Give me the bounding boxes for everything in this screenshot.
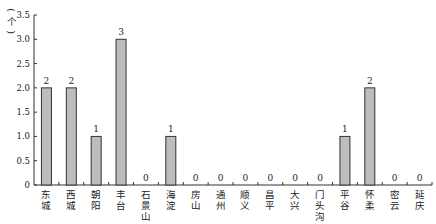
bar-value-label: 0 xyxy=(392,173,398,183)
x-axis-category-labels: 东城西城朝阳丰台石景山海淀房山通州顺义昌平大兴门头沟平谷怀柔密云延庆 xyxy=(41,189,424,222)
y-tick-label: 1.0 xyxy=(16,131,30,141)
x-category-label: 东 xyxy=(41,189,51,200)
x-category-label: 山 xyxy=(141,211,151,222)
x-category-label: 平 xyxy=(340,189,350,200)
bar xyxy=(66,88,76,185)
x-category-label: 延 xyxy=(415,189,425,200)
x-category-label: 柔 xyxy=(365,200,375,211)
y-tick-label: 3.0 xyxy=(16,34,30,44)
bar-value-label: 0 xyxy=(143,173,149,183)
y-tick-label: 2.0 xyxy=(16,83,30,93)
bar xyxy=(41,88,51,185)
x-category-label: 朝 xyxy=(91,189,101,200)
x-category-label: 通 xyxy=(216,189,226,200)
bars: 2213010000001200 xyxy=(41,27,422,185)
bar-value-label: 1 xyxy=(342,124,348,134)
bar-value-label: 0 xyxy=(193,173,199,183)
x-category-label: 城 xyxy=(66,200,76,211)
x-category-label: 房 xyxy=(191,189,201,200)
bar-value-label: 0 xyxy=(417,173,423,183)
y-tick-label: 0.5 xyxy=(16,156,30,166)
bar-value-label: 0 xyxy=(317,173,323,183)
bar-chart: (个) 00.51.01.52.02.53.03.5 2213010000001… xyxy=(0,0,436,224)
y-axis-label: (个) xyxy=(6,8,17,34)
x-category-label: 庆 xyxy=(415,200,425,211)
x-category-label: 沟 xyxy=(315,211,325,222)
x-category-label: 丰 xyxy=(116,189,126,200)
y-axis: 00.51.01.52.02.53.03.5 xyxy=(16,10,37,190)
x-category-label: 山 xyxy=(191,200,201,211)
x-category-label: 淀 xyxy=(166,200,176,211)
bar xyxy=(116,39,126,185)
x-category-label: 州 xyxy=(216,200,226,211)
bar-value-label: 3 xyxy=(118,27,124,37)
x-category-label: 海 xyxy=(166,189,176,200)
bar-value-label: 0 xyxy=(267,173,273,183)
x-category-label: 城 xyxy=(41,200,51,211)
y-axis-title-char: ) xyxy=(6,30,17,34)
x-category-label: 密 xyxy=(390,189,400,200)
x-category-label: 门 xyxy=(315,189,325,200)
x-category-label: 头 xyxy=(315,200,325,211)
x-category-label: 怀 xyxy=(365,189,375,200)
bar xyxy=(91,136,101,185)
x-category-label: 昌 xyxy=(265,189,275,200)
bar xyxy=(340,136,350,185)
y-tick-label: 2.5 xyxy=(16,59,30,69)
x-category-label: 西 xyxy=(66,189,76,200)
y-tick-label: 1.5 xyxy=(16,107,30,117)
x-category-label: 阳 xyxy=(91,200,101,211)
bar xyxy=(365,88,375,185)
bar xyxy=(166,136,176,185)
bar-value-label: 1 xyxy=(168,124,174,134)
x-category-label: 景 xyxy=(141,200,151,211)
x-category-label: 云 xyxy=(390,200,400,211)
x-category-label: 石 xyxy=(141,189,151,200)
x-category-label: 大 xyxy=(290,189,300,200)
x-category-label: 顺 xyxy=(240,189,250,200)
x-category-label: 谷 xyxy=(340,200,350,211)
bar-value-label: 0 xyxy=(243,173,249,183)
x-category-label: 兴 xyxy=(290,200,300,211)
y-axis-title-char: ( xyxy=(6,8,17,12)
bar-value-label: 2 xyxy=(68,76,74,86)
bar-value-label: 2 xyxy=(367,76,373,86)
y-tick-label: 0 xyxy=(25,180,30,190)
bar-value-label: 1 xyxy=(93,124,99,134)
y-tick-label: 3.5 xyxy=(16,10,30,20)
bar-value-label: 2 xyxy=(44,76,50,86)
x-category-label: 义 xyxy=(240,200,250,211)
bar-value-label: 0 xyxy=(292,173,298,183)
x-category-label: 平 xyxy=(265,200,275,211)
x-category-label: 台 xyxy=(116,200,126,211)
bar-value-label: 0 xyxy=(218,173,224,183)
